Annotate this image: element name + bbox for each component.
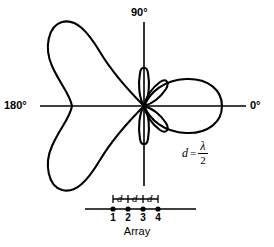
axis-label-180: 180° (4, 99, 27, 111)
spacing-variable: d (182, 146, 188, 161)
array-element-label-4: 4 (152, 212, 164, 223)
array-caption: Array (0, 225, 274, 237)
antenna-pattern-figure: 90° 180° 0° d = λ 2 d d d 1 2 3 4 Array (0, 0, 274, 247)
back-lobe-lower-left (48, 106, 144, 191)
radiation-pattern-plot (0, 0, 274, 247)
array-element-label-2: 2 (122, 212, 134, 223)
array-element-dot-2 (125, 206, 130, 211)
equals-sign: = (190, 147, 196, 159)
lambda-over-two-fraction: λ 2 (198, 140, 208, 166)
fraction-numerator: λ (198, 140, 207, 153)
axis-label-90: 90° (131, 6, 148, 18)
axis-label-0: 0° (250, 99, 261, 111)
array-element-dot-1 (110, 206, 115, 211)
array-element-dot-3 (140, 206, 145, 211)
back-lobe-upper-left (48, 21, 144, 106)
spacing-label-2: d (132, 192, 138, 204)
fraction-denominator: 2 (198, 154, 208, 166)
array-element-label-3: 3 (137, 212, 149, 223)
spacing-formula-annotation: d = λ 2 (182, 140, 208, 166)
spacing-label-3: d (147, 192, 153, 204)
spacing-label-1: d (117, 192, 123, 204)
array-element-dot-4 (155, 206, 160, 211)
array-element-label-1: 1 (107, 212, 119, 223)
